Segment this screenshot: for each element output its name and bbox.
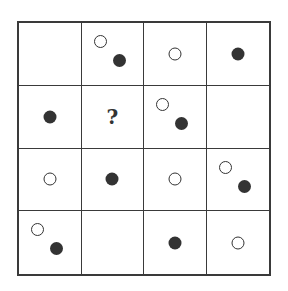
grid-cell-r1-c0 bbox=[19, 86, 82, 149]
grid-cell-r0-c3 bbox=[207, 23, 270, 86]
grid-cell-r2-c0 bbox=[19, 149, 82, 212]
grid-cell-r2-c3 bbox=[207, 149, 270, 212]
open-circle-icon bbox=[156, 98, 169, 111]
filled-circle-icon bbox=[231, 47, 244, 60]
filled-circle-icon bbox=[168, 236, 181, 249]
grid-cell-r3-c3 bbox=[207, 211, 270, 274]
filled-circle-icon bbox=[106, 173, 119, 186]
open-circle-icon bbox=[168, 47, 181, 60]
filled-circle-icon bbox=[175, 117, 188, 130]
open-circle-icon bbox=[168, 173, 181, 186]
grid-cell-r1-c1[interactable]: ? bbox=[82, 86, 145, 149]
grid-cell-r1-c2 bbox=[144, 86, 207, 149]
filled-circle-icon bbox=[238, 180, 251, 193]
grid-cell-r2-c1 bbox=[82, 149, 145, 212]
grid-cell-r0-c2 bbox=[144, 23, 207, 86]
open-circle-icon bbox=[219, 161, 232, 174]
open-circle-icon bbox=[231, 236, 244, 249]
filled-circle-icon bbox=[113, 54, 126, 67]
grid-cell-r1-c3 bbox=[207, 86, 270, 149]
filled-circle-icon bbox=[50, 242, 63, 255]
grid-cell-r2-c2 bbox=[144, 149, 207, 212]
open-circle-icon bbox=[94, 35, 107, 48]
puzzle-grid: ? bbox=[17, 21, 271, 276]
grid-cell-r0-c1 bbox=[82, 23, 145, 86]
open-circle-icon bbox=[31, 223, 44, 236]
question-mark: ? bbox=[106, 105, 118, 129]
grid-cell-r3-c1 bbox=[82, 211, 145, 274]
grid-cell-r3-c2 bbox=[144, 211, 207, 274]
grid-cell-r3-c0 bbox=[19, 211, 82, 274]
filled-circle-icon bbox=[43, 110, 56, 123]
open-circle-icon bbox=[43, 173, 56, 186]
grid-cell-r0-c0 bbox=[19, 23, 82, 86]
